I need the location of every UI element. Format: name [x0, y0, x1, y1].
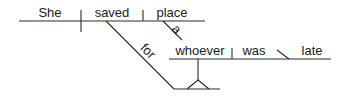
pedestal-triangle — [187, 80, 209, 89]
word-subject: She — [38, 5, 61, 20]
word-preposition: for — [137, 40, 159, 62]
word-verb: saved — [95, 5, 130, 20]
predicate-slash — [277, 50, 289, 59]
word-predicate-adjective: late — [302, 43, 323, 58]
word-clause-verb: was — [241, 43, 266, 58]
word-object: place — [156, 5, 187, 20]
sentence-diagram: She saved place a for whoever was late — [0, 0, 346, 97]
word-clause-subject: whoever — [174, 43, 225, 58]
preposition-line — [106, 21, 174, 89]
